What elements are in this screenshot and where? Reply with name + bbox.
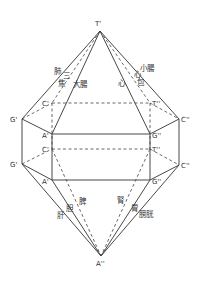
label-pericardium-2: 包 [137, 77, 145, 87]
vertex-lower-right-front: G'' [152, 178, 161, 186]
label-spleen: 脾 [79, 196, 87, 206]
vertex-upper-left-back: C' [42, 100, 49, 108]
label-large-intestine: 大腸 [73, 79, 88, 89]
lower-pyramid-edges [22, 149, 179, 256]
vertex-lower-left-front: A' [42, 178, 49, 186]
upper-pyramid-edges [22, 31, 179, 134]
label-liver: 肝 [57, 211, 65, 220]
vertex-upper-right-outer: C'' [181, 116, 190, 124]
label-triple-burner-2: 焦 [58, 78, 66, 88]
vertex-labels: T' G' G' C' C' A' A' G'' G'' T'' T'' C''… [10, 20, 190, 268]
bipyramid-organ-diagram: T' G' G' C' C' A' A' G'' G'' T'' T'' C''… [0, 0, 202, 287]
vertex-lower-left-back: C' [42, 146, 49, 154]
label-stomach: 胃 [131, 204, 138, 213]
vertex-lower-left-outer: G' [10, 161, 17, 169]
vertex-lower-right-outer: C'' [181, 162, 190, 170]
label-small-intestine: 小腸 [140, 64, 155, 73]
lower-organ-labels: 肝 胆 脾 腎 胃 膀胱 [57, 196, 154, 220]
vertex-upper-left-front: A' [42, 132, 49, 140]
vertex-bottom-apex: A'' [96, 260, 105, 268]
vertex-upper-right-back: T'' [151, 100, 160, 108]
vertex-upper-left-outer: G' [10, 116, 17, 124]
label-kidney: 腎 [117, 196, 125, 205]
label-lung: 肺 [54, 67, 62, 76]
vertex-lower-right-back: T'' [151, 146, 160, 154]
label-gallbladder: 胆 [66, 204, 74, 213]
upper-organ-labels: 肺 三 焦 大腸 小腸 心 包 心 [54, 64, 155, 89]
vertex-upper-right-front: G'' [152, 132, 161, 140]
vertex-top-apex: T' [94, 20, 101, 28]
label-bladder: 膀胱 [139, 209, 154, 219]
label-heart: 心 [118, 79, 126, 88]
prism-vertical-edges [22, 103, 179, 180]
